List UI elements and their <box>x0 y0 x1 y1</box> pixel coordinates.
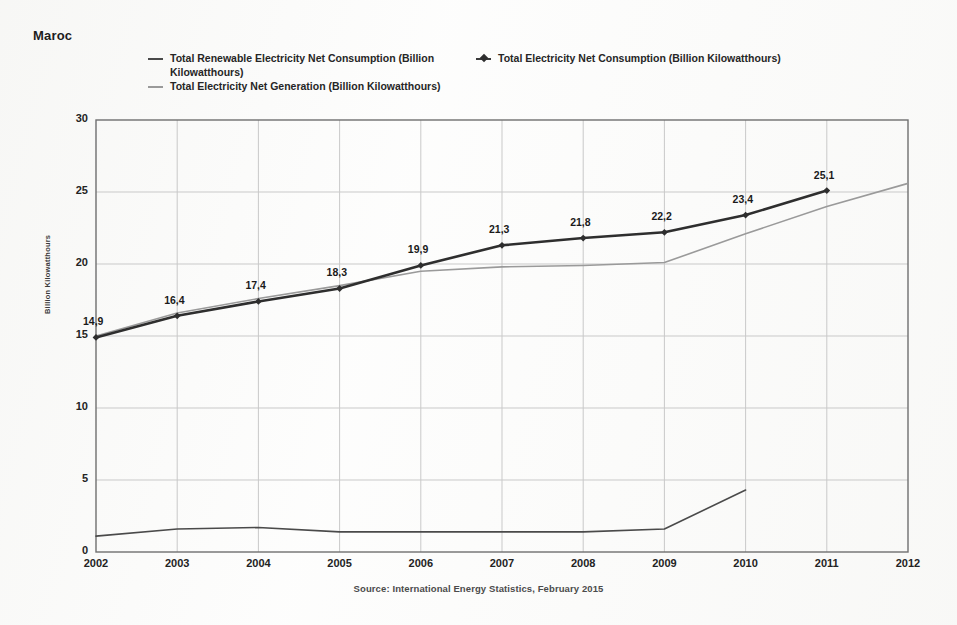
x-tick-label: 2006 <box>393 557 449 569</box>
y-tick-label: 30 <box>48 112 88 124</box>
data-point-value-label: 23,4 <box>733 193 753 205</box>
chart-plot-area <box>0 0 957 625</box>
y-tick-label: 10 <box>48 400 88 412</box>
x-tick-label: 2005 <box>312 557 368 569</box>
data-point-value-label: 18,3 <box>327 266 347 278</box>
data-point-value-label: 19,9 <box>408 243 428 255</box>
data-point-marker <box>661 229 668 236</box>
data-point-marker <box>742 212 749 219</box>
data-point-marker <box>499 242 506 249</box>
y-tick-label: 15 <box>48 328 88 340</box>
data-point-marker <box>417 262 424 269</box>
y-tick-label: 25 <box>48 184 88 196</box>
x-tick-label: 2008 <box>555 557 611 569</box>
x-tick-label: 2010 <box>718 557 774 569</box>
data-point-value-label: 16,4 <box>164 294 184 306</box>
data-point-value-label: 21,3 <box>489 223 509 235</box>
data-point-value-label: 21,8 <box>570 216 590 228</box>
x-tick-label: 2011 <box>799 557 855 569</box>
grid-layer <box>96 120 908 552</box>
data-point-marker <box>580 235 587 242</box>
x-tick-label: 2003 <box>149 557 205 569</box>
source-note: Source: International Energy Statistics,… <box>0 583 957 594</box>
data-point-marker <box>823 187 830 194</box>
data-point-value-label: 25,1 <box>814 169 834 181</box>
x-tick-label: 2004 <box>230 557 286 569</box>
x-tick-label: 2012 <box>880 557 936 569</box>
x-tick-label: 2009 <box>636 557 692 569</box>
data-point-value-label: 17,4 <box>245 279 265 291</box>
y-tick-label: 0 <box>48 544 88 556</box>
y-tick-label: 20 <box>48 256 88 268</box>
x-tick-label: 2002 <box>68 557 124 569</box>
data-point-value-label: 22,2 <box>651 210 671 222</box>
data-point-value-label: 14,9 <box>83 315 103 327</box>
x-tick-label: 2007 <box>474 557 530 569</box>
y-tick-label: 5 <box>48 472 88 484</box>
